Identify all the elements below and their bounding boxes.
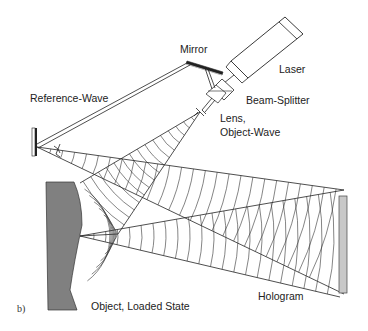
object-wave-wavefront [145, 145, 164, 166]
scattered-wave-wavefront [129, 227, 130, 247]
reference-wave-wavefront [93, 156, 99, 174]
scattered-wave-wavefront [257, 205, 262, 278]
label-reference-wave: Reference-Wave [30, 92, 109, 104]
object [46, 182, 82, 310]
label-mirror: Mirror [180, 43, 208, 55]
mirror [186, 61, 223, 75]
label-laser: Laser [279, 63, 306, 75]
reference-wave-wavefront [277, 184, 301, 262]
scattered-wave-wavefront [316, 195, 322, 292]
object-wave-wavefront [191, 117, 194, 120]
reference-lens [54, 144, 60, 157]
label-object-wave: Object-Wave [220, 126, 280, 138]
reference-beam [37, 63, 190, 148]
label-beam-splitter: Beam-Splitter [246, 94, 310, 106]
reference-wave-wavefront [309, 189, 336, 278]
object-wave-wavefront [160, 135, 174, 150]
scattered-wave-wavefront [187, 217, 190, 261]
panel-label: b) [17, 303, 25, 315]
reference-wave-wavefront [115, 159, 123, 184]
object-wave-wavefront [137, 149, 159, 172]
reference-wave-wavefront [50, 149, 51, 153]
reference-wave-wavefront [169, 167, 182, 210]
scattered-wave-wavefront [140, 225, 142, 250]
object-wave-wavefront [184, 122, 190, 128]
object-wave-wavefront [153, 140, 170, 158]
scattered-wave-wavefront [304, 197, 310, 289]
object-wave-cone [80, 112, 200, 234]
reference-wave-wavefront [212, 174, 229, 231]
holography-diagram: Mirror Laser Reference-Wave Beam-Splitte… [0, 0, 368, 331]
reference-wave-wavefront [255, 181, 276, 252]
object-scattered-wave [80, 190, 344, 297]
scattered-wave-wavefront [152, 223, 154, 253]
reference-wave-wavefront [125, 161, 134, 190]
hologram [339, 196, 347, 293]
scattered-wave-wavefront [164, 221, 166, 255]
object-wave-wavefront [83, 181, 124, 225]
scattered-wave-wavefront [246, 207, 251, 275]
object-wave-wavefront [168, 131, 179, 143]
reference-wave-wavefront [82, 154, 86, 169]
scattered-wave-wavefront [175, 219, 178, 258]
scattered-wave-wavefront [211, 213, 215, 267]
reference-mirror [32, 128, 37, 156]
scattered-wave-wavefront [105, 232, 106, 242]
scattered-wave-wavefront [199, 215, 202, 264]
object-wave-wavefront [106, 168, 139, 203]
reference-wave-fan [37, 147, 344, 294]
object-wave-wavefront [176, 126, 185, 135]
scattered-wave-wavefront [117, 230, 118, 245]
object-wave-wavefront [91, 177, 130, 218]
reference-wave-wavefront [71, 152, 74, 163]
label-object: Object, Loaded State [91, 300, 190, 312]
scattered-wave-wavefront [222, 211, 226, 269]
reference-wave-wavefront [190, 171, 205, 221]
scattered-wave-wavefront [281, 201, 286, 284]
reference-wave-wavefront [147, 164, 158, 200]
label-hologram: Hologram [258, 290, 304, 302]
reference-wave-wavefront [61, 151, 63, 159]
reference-wave-wavefront [180, 169, 194, 215]
label-lens: Lens, [220, 112, 246, 124]
scattered-wave-wavefront [234, 209, 238, 272]
